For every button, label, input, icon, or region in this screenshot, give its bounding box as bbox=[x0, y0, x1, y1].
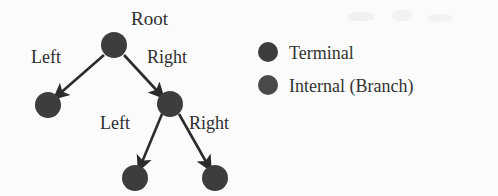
edge-label-root-right: Right bbox=[147, 48, 187, 66]
edge-root-left bbox=[57, 55, 104, 96]
node-branch-left-terminal[interactable] bbox=[122, 165, 148, 191]
edge-label-branch-left: Left bbox=[100, 114, 130, 132]
node-branch-right-terminal[interactable] bbox=[202, 165, 228, 191]
tree-edges bbox=[57, 55, 209, 167]
legend-label-internal: Internal (Branch) bbox=[289, 77, 413, 95]
tree-diagram-figure: Root Left Right Left Right Terminal Inte… bbox=[0, 0, 498, 196]
node-label-root: Root bbox=[131, 9, 168, 28]
node-right-internal[interactable] bbox=[157, 91, 183, 117]
legend-markers bbox=[258, 42, 278, 95]
legend-dot-internal bbox=[258, 75, 278, 95]
legend-label-terminal: Terminal bbox=[289, 44, 354, 62]
tree-graphics bbox=[0, 0, 498, 196]
edge-branch-left bbox=[140, 114, 162, 167]
node-left-terminal[interactable] bbox=[35, 92, 61, 118]
tree-nodes bbox=[35, 32, 228, 191]
legend-dot-terminal bbox=[258, 42, 278, 62]
edge-label-root-left: Left bbox=[31, 48, 61, 66]
edge-label-branch-right: Right bbox=[189, 114, 229, 132]
node-root[interactable] bbox=[101, 32, 127, 58]
